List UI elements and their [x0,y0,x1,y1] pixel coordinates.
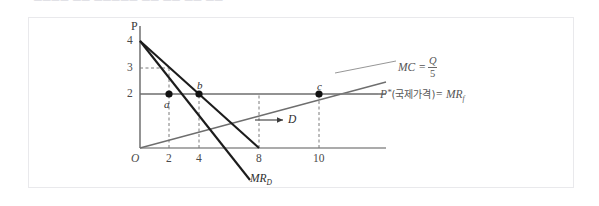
curve-label-demand: D [288,114,296,126]
curve-marginal-cost [140,82,386,148]
point-label-c: c [317,81,322,92]
y-tick-2: 2 [127,88,133,100]
curve-label-international-price: P*(국제가격)= MRf [380,89,465,101]
mc-denominator: 5 [429,69,436,80]
chart-canvas [0,0,599,206]
x-tick-2: 2 [166,153,172,165]
mc-text: MC = [398,62,426,74]
data-point-b[interactable] [195,90,202,97]
point-label-b: b [197,80,203,91]
data-point-a[interactable] [165,90,172,97]
curve-marginal-revenue-domestic [140,41,250,180]
pstar-korean-note: (국제가격) [392,89,436,100]
pstar-asterisk: * [387,87,392,97]
diagram-root: ──── ── ───── ── ── ── ── [0,0,599,206]
point-label-a: a [164,99,170,110]
y-axis-label: P [131,20,138,32]
mc-fraction: Q5 [428,56,438,80]
demand-arrow-head [277,117,283,122]
mr-domestic-text: MR [250,172,267,184]
leader-line-mc [335,61,396,73]
x-tick-origin: O [131,153,139,165]
mc-numerator: Q [428,56,438,67]
x-tick-10: 10 [313,153,325,165]
pstar-text: P [380,88,387,100]
x-tick-8: 8 [256,153,262,165]
mr-domestic-subscript: D [267,178,272,187]
pstar-equals-mr: = MR [435,88,462,100]
y-tick-3: 3 [127,62,133,74]
y-tick-4: 4 [127,35,133,47]
pstar-mr-subscript: f [463,94,465,103]
curve-label-mr-domestic: MRD [250,173,272,185]
curve-label-marginal-cost: MC =Q5 [398,56,437,80]
x-tick-4: 4 [196,153,202,165]
